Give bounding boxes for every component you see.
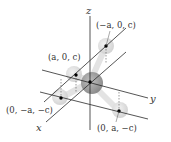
label-0-minus-a-minus-c: (0, −a, −c) — [6, 105, 53, 115]
line-minus-c — [40, 92, 148, 119]
x-axis-label: x — [36, 122, 42, 133]
z-axis-label: z — [85, 5, 92, 16]
dot-a-0-c — [74, 73, 77, 76]
label-0-a-minus-c: (0, a, −c) — [97, 123, 137, 133]
dot-0-minus-a-minus-c — [59, 96, 62, 99]
label-minus-a-0-c: (−a, 0, c) — [96, 20, 136, 30]
dot-origin — [88, 80, 91, 83]
label-a-0-c: (a, 0, c) — [48, 52, 81, 62]
y-axis-label: y — [149, 93, 156, 104]
molecule-coordinate-diagram: z y x (−a, 0, c) (a, 0, c) (0, −a, −c) (… — [0, 0, 171, 142]
